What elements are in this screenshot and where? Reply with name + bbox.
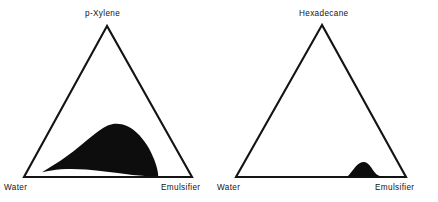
apex-label-left: p-Xylene xyxy=(85,10,120,18)
one-phase-region-right xyxy=(348,162,384,178)
bottom-right-label-right: Emulsifier xyxy=(375,184,414,192)
triangle-outline-right xyxy=(236,25,406,177)
ternary-diagram-figure: p-Xylene Water Emulsifier Hexadecane Wat… xyxy=(0,0,438,202)
figure-canvas xyxy=(0,0,438,202)
bottom-left-label-left: Water xyxy=(4,184,27,192)
one-phase-region-left xyxy=(42,124,158,177)
bottom-right-label-left: Emulsifier xyxy=(161,184,200,192)
bottom-left-label-right: Water xyxy=(217,184,240,192)
panel-right xyxy=(236,25,406,177)
panel-left xyxy=(24,26,192,177)
apex-label-right: Hexadecane xyxy=(299,10,348,18)
